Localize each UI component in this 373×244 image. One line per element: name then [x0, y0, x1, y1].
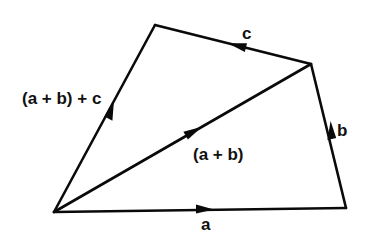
arrowhead-b-icon — [327, 121, 336, 140]
label-a: a — [201, 215, 211, 234]
arrowhead-a-plus-b-icon — [183, 127, 202, 140]
arrowhead-c-icon — [228, 43, 247, 52]
label-sum: (a + b) + c — [22, 89, 101, 108]
vector-a — [54, 205, 346, 214]
label-b: b — [337, 121, 347, 140]
arrowhead-a-icon — [196, 205, 214, 214]
vector-c — [155, 25, 311, 64]
label-c: c — [242, 24, 251, 43]
vector-addition-diagram: (a + b) + c c (a + b) b a — [0, 0, 373, 244]
label-a-plus-b: (a + b) — [193, 145, 244, 164]
